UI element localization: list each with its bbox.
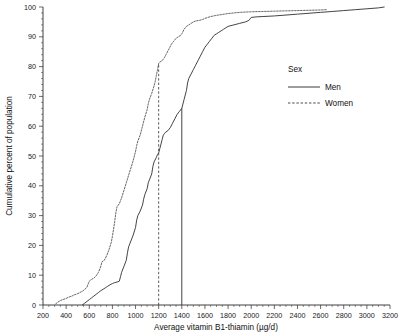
x-tick-label: 2200: [266, 311, 282, 320]
y-axis-ticks: [39, 7, 43, 305]
y-axis: 0102030405060708090100 Cumulative percen…: [5, 3, 43, 310]
y-tick-label: 60: [28, 122, 36, 131]
x-tick-label: 3200: [382, 311, 398, 320]
x-axis-tick-labels: 2004006008001000120014001600180020002200…: [37, 311, 398, 320]
y-tick-label: 50: [28, 152, 36, 161]
y-axis-title: Cumulative percent of population: [5, 96, 14, 216]
y-axis-tick-labels: 0102030405060708090100: [24, 3, 36, 310]
cumulative-distribution-chart: 0102030405060708090100 Cumulative percen…: [0, 0, 404, 336]
series-line-women: [56, 10, 327, 304]
x-tick-label: 800: [106, 311, 118, 320]
y-tick-label: 40: [28, 181, 36, 190]
legend-label-men: Men: [325, 83, 341, 92]
y-tick-label: 90: [28, 32, 36, 41]
y-tick-label: 100: [24, 3, 36, 12]
y-tick-label: 0: [32, 301, 36, 310]
x-tick-label: 1400: [174, 311, 190, 320]
x-tick-label: 3000: [359, 311, 375, 320]
plot-series: [56, 7, 385, 305]
x-tick-label: 1200: [151, 311, 167, 320]
legend-label-women: Women: [325, 99, 354, 108]
x-tick-label: 2400: [289, 311, 305, 320]
series-line-men: [82, 7, 384, 305]
x-tick-label: 200: [37, 311, 49, 320]
x-tick-label: 2600: [313, 311, 329, 320]
x-tick-label: 2000: [243, 311, 259, 320]
x-tick-label: 2800: [336, 311, 352, 320]
x-axis-ticks: [43, 305, 390, 309]
legend: Sex Men Women: [288, 65, 354, 108]
x-tick-label: 1600: [197, 311, 213, 320]
y-tick-label: 70: [28, 92, 36, 101]
x-tick-label: 1800: [220, 311, 236, 320]
legend-title: Sex: [288, 65, 302, 74]
y-tick-label: 20: [28, 241, 36, 250]
x-tick-label: 1000: [128, 311, 144, 320]
y-tick-label: 10: [28, 271, 36, 280]
x-axis-title: Average vitamin B1-thiamin (µg/d): [154, 323, 278, 332]
x-tick-label: 400: [60, 311, 72, 320]
reference-lines: [159, 64, 182, 305]
y-tick-label: 30: [28, 211, 36, 220]
chart-container: 0102030405060708090100 Cumulative percen…: [0, 0, 404, 336]
x-tick-label: 600: [83, 311, 95, 320]
y-tick-label: 80: [28, 62, 36, 71]
x-axis: 2004006008001000120014001600180020002200…: [37, 305, 398, 332]
